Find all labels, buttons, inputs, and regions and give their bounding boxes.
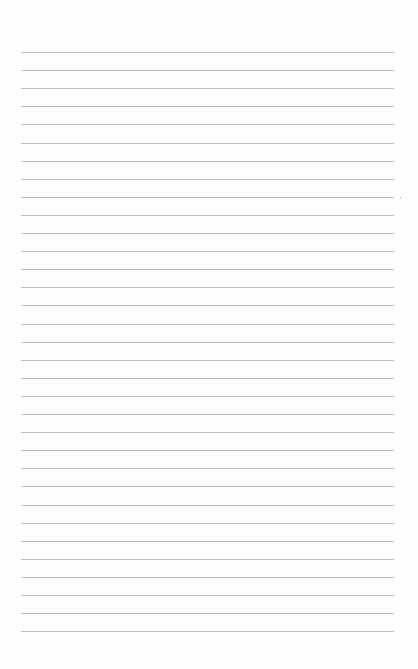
ruled-line bbox=[21, 577, 394, 578]
ruled-line bbox=[21, 52, 394, 53]
ruled-line bbox=[21, 197, 394, 198]
ruled-line bbox=[21, 179, 394, 180]
ruled-line bbox=[21, 595, 394, 596]
ruled-line bbox=[21, 541, 394, 542]
ruled-line bbox=[21, 468, 394, 469]
ruled-line bbox=[21, 251, 394, 252]
ruled-line bbox=[21, 233, 394, 234]
ruled-line bbox=[21, 378, 394, 379]
ruled-line bbox=[21, 70, 394, 71]
ruled-line bbox=[21, 396, 394, 397]
ruled-line bbox=[21, 324, 394, 325]
ruled-line bbox=[21, 450, 394, 451]
ruled-line bbox=[21, 414, 394, 415]
ruled-line bbox=[21, 215, 394, 216]
paper-speck bbox=[400, 197, 401, 198]
ruled-line bbox=[21, 106, 394, 107]
ruled-line bbox=[21, 432, 394, 433]
ruled-line bbox=[21, 505, 394, 506]
ruled-line bbox=[21, 287, 394, 288]
ruled-line bbox=[21, 161, 394, 162]
ruled-line bbox=[21, 143, 394, 144]
ruled-line bbox=[21, 124, 394, 125]
ruled-line bbox=[21, 631, 394, 632]
ruled-line bbox=[21, 613, 394, 614]
ruled-line bbox=[21, 559, 394, 560]
ruled-line bbox=[21, 269, 394, 270]
ruled-line bbox=[21, 305, 394, 306]
ruled-line bbox=[21, 88, 394, 89]
ruled-line bbox=[21, 360, 394, 361]
ruled-line bbox=[21, 486, 394, 487]
ruled-line bbox=[21, 523, 394, 524]
ruled-line bbox=[21, 342, 394, 343]
lined-paper-page bbox=[0, 0, 418, 669]
